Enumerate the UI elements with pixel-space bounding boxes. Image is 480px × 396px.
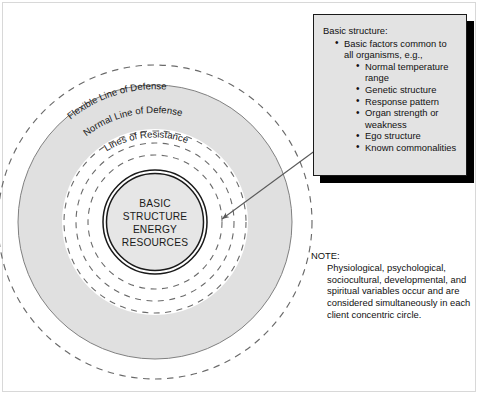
callout-subitem: Organ strength or weakness — [356, 107, 458, 130]
core-circle-inner-outline — [107, 174, 204, 271]
core-label-line-3: ENERGY — [133, 224, 177, 235]
callout-subitem: Normal temperature range — [356, 61, 458, 84]
callout-item-text: Basic factors common to all organisms, e… — [344, 38, 447, 61]
core-label-line-2: STRUCTURE — [123, 211, 188, 222]
core-label-line-1: BASIC — [139, 198, 171, 209]
callout-subitem: Response pattern — [356, 96, 458, 108]
callout-subitem: Known commonalities — [356, 142, 458, 154]
note-body: Physiological, psychological, sociocultu… — [311, 262, 476, 321]
concentric-circles-diagram: Flexible Line of Defense Normal Line of … — [0, 0, 320, 396]
callout-list-level-2: Normal temperature range Genetic structu… — [344, 61, 458, 154]
callout-box-basic-structure: Basic structure: Basic factors common to… — [313, 14, 467, 176]
note-block: NOTE: Physiological, psychological, soci… — [311, 250, 476, 321]
callout-subitem: Ego structure — [356, 130, 458, 142]
callout-item: Basic factors common to all organisms, e… — [335, 38, 458, 154]
callout-subitem: Genetic structure — [356, 84, 458, 96]
callout-list-level-1: Basic factors common to all organisms, e… — [323, 38, 458, 154]
core-label-line-4: RESOURCES — [122, 237, 188, 248]
callout-title: Basic structure: — [323, 25, 458, 37]
figure-canvas: Flexible Line of Defense Normal Line of … — [0, 0, 480, 396]
note-label: NOTE: — [311, 250, 476, 262]
